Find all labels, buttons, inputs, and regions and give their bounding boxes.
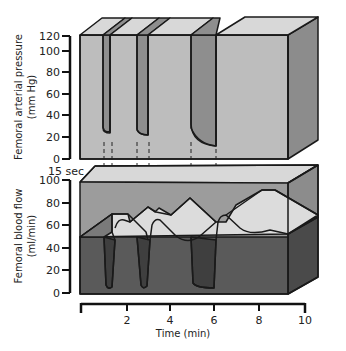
pressure-tick-60: 60	[46, 88, 60, 101]
flow-y-axis: 100 80 60 40 20 0 Femoral blood flow (ml…	[13, 174, 70, 300]
pressure-tick-120: 120	[39, 30, 60, 43]
hemodynamics-diagram: 120 100 80 60 40 20 0 Femoral arterial p…	[0, 0, 346, 351]
time-x-axis: 2 4 6 8 10 Time (min)	[81, 303, 312, 339]
pressure-tick-20: 20	[46, 131, 60, 144]
flow-axis-title: Femoral blood flow	[13, 189, 24, 284]
pressure-tick-80: 80	[46, 66, 60, 79]
flow-tick-40: 40	[46, 242, 60, 255]
pressure-y-axis: 120 100 80 60 40 20 0 Femoral arterial p…	[13, 30, 70, 166]
pressure-axis-unit: (mm Hg)	[26, 75, 37, 119]
flow-tick-100: 100	[39, 174, 60, 187]
flow-axis-unit: (ml/min)	[26, 215, 37, 258]
pressure-tick-40: 40	[46, 109, 60, 122]
time-axis-title: Time (min)	[155, 328, 210, 339]
time-tick-8: 8	[256, 314, 263, 327]
time-tick-4: 4	[167, 314, 174, 327]
flow-tick-0: 0	[53, 287, 60, 300]
flow-block	[80, 165, 318, 294]
flow-tick-20: 20	[46, 264, 60, 277]
time-tick-6: 6	[211, 314, 218, 327]
flow-tick-60: 60	[46, 219, 60, 232]
pressure-block	[80, 17, 318, 159]
pressure-axis-title: Femoral arterial pressure	[13, 34, 24, 160]
time-tick-10: 10	[298, 314, 312, 327]
pressure-tick-100: 100	[39, 45, 60, 58]
flow-tick-80: 80	[46, 197, 60, 210]
time-tick-2: 2	[124, 314, 131, 327]
